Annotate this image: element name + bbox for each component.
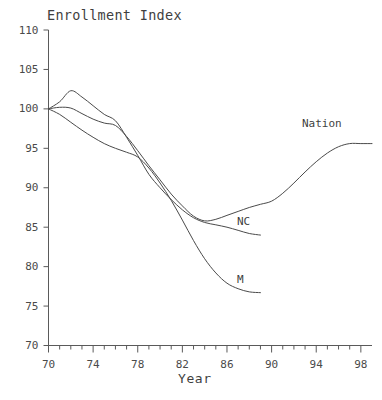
x-axis-ticks — [49, 346, 361, 353]
x-axis-title: Year — [178, 372, 212, 385]
y-tick-label: 85 — [9, 222, 39, 233]
axes — [48, 30, 372, 346]
plot-area — [0, 0, 382, 400]
series-label-m: M — [237, 274, 244, 285]
enrollment-index-chart: Enrollment Index 707580859095100105110 7… — [0, 0, 382, 400]
x-tick-label: 94 — [304, 359, 328, 370]
series-line-m — [49, 109, 261, 293]
y-tick-label: 100 — [9, 103, 39, 114]
y-tick-label: 95 — [9, 143, 39, 154]
x-tick-label: 90 — [260, 359, 284, 370]
y-tick-label: 75 — [9, 301, 39, 312]
y-tick-label: 80 — [9, 261, 39, 272]
x-tick-label: 74 — [81, 359, 105, 370]
y-tick-label: 90 — [9, 182, 39, 193]
y-tick-label: 70 — [9, 340, 39, 351]
y-axis-ticks — [44, 30, 49, 346]
series-label-nc: NC — [237, 216, 250, 227]
x-tick-label: 86 — [215, 359, 239, 370]
x-tick-label: 78 — [126, 359, 150, 370]
x-tick-label: 82 — [170, 359, 194, 370]
series-label-nation: Nation — [302, 118, 342, 129]
y-tick-label: 110 — [9, 25, 39, 36]
x-tick-label: 98 — [349, 359, 373, 370]
y-tick-label: 105 — [9, 64, 39, 75]
x-tick-label: 70 — [37, 359, 61, 370]
